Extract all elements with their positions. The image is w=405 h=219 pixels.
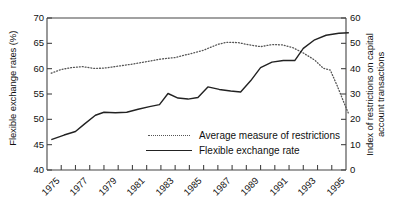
- series-line-flexible-exchange-rate: [51, 33, 349, 140]
- legend-swatch-dotted: [146, 131, 192, 140]
- legend-item-flexible-rate: Flexible exchange rate: [146, 143, 356, 158]
- chart-figure: Flexible exchange rates (%) Index of res…: [0, 0, 405, 219]
- legend-label-flexible-rate: Flexible exchange rate: [199, 145, 300, 156]
- chart-legend: Average measure of restrictions Flexible…: [146, 128, 356, 158]
- series-line-average-measure-of-restrictions: [51, 42, 349, 114]
- legend-label-restrictions: Average measure of restrictions: [199, 130, 340, 141]
- legend-item-restrictions: Average measure of restrictions: [146, 128, 356, 143]
- legend-swatch-solid: [146, 146, 192, 155]
- plot-area: [0, 0, 405, 219]
